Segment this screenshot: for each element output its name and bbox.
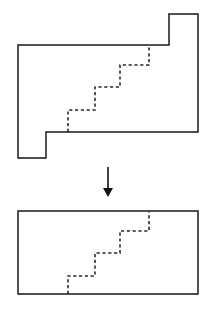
diagram-root bbox=[0, 0, 208, 315]
figure-canvas bbox=[0, 0, 208, 315]
bottom-panel-group bbox=[18, 211, 198, 294]
top-shape-outline bbox=[18, 14, 198, 158]
bottom-shape-outline bbox=[18, 211, 198, 294]
transformation-arrow-group bbox=[103, 167, 113, 197]
arrow-head-icon bbox=[103, 188, 113, 197]
top-panel-group bbox=[18, 14, 198, 158]
